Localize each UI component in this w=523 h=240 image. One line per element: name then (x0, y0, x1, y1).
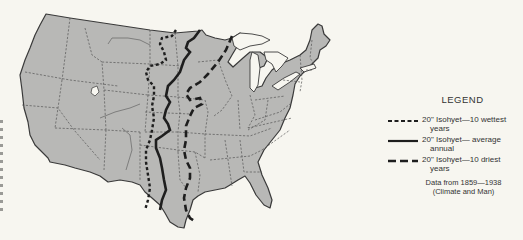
legend-item-wettest-line2: years (422, 124, 506, 133)
legend-item-average-line2: annual (422, 144, 501, 153)
lake-superior (232, 33, 270, 50)
long-dash-line-icon (388, 157, 418, 165)
legend-item-driest: 20" Isohyet—10 driest years (388, 155, 523, 173)
legend-item-average-line1: 20" Isohyet— average (422, 135, 501, 144)
legend-title: LEGEND (402, 94, 523, 105)
legend-item-wettest: 20" Isohyet—10 wettest years (388, 115, 523, 133)
short-dash-line-icon (388, 117, 418, 125)
map-legend: LEGEND 20" Isohyet—10 wettest years 20" … (388, 94, 523, 196)
page-edge-marks (0, 120, 3, 215)
data-source-line2: (Climate and Man) (404, 188, 523, 197)
legend-item-average: 20" Isohyet— average annual (388, 135, 523, 153)
lake-michigan (250, 52, 260, 92)
solid-line-icon (388, 137, 418, 145)
legend-item-driest-line1: 20" Isohyet—10 driest (422, 155, 500, 164)
data-source-note: Data from 1859—1938 (Climate and Man) (404, 179, 523, 196)
legend-item-driest-line2: years (422, 164, 500, 173)
legend-item-wettest-line1: 20" Isohyet—10 wettest (422, 115, 506, 124)
